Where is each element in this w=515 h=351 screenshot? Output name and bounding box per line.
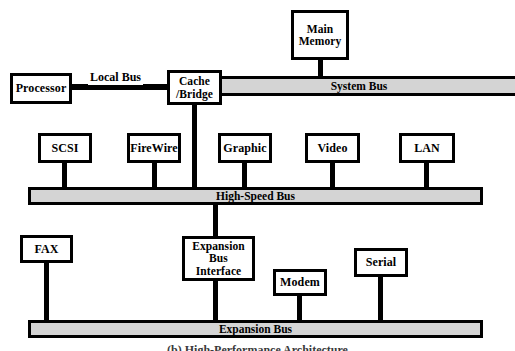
cache-bridge-to-high-speed-bus-connector bbox=[192, 103, 197, 189]
node-main-memory-label-line1: Main bbox=[307, 23, 334, 35]
expansion-interface-to-expansion-bus-connector bbox=[213, 280, 218, 322]
graphic-to-high-speed-bus-connector bbox=[242, 161, 247, 189]
lan-to-high-speed-bus-connector bbox=[424, 161, 429, 189]
node-cache-bridge: Cache /Bridge bbox=[167, 70, 222, 105]
node-expansion-bus-interface: Expansion Bus Interface bbox=[182, 236, 255, 281]
bus-high-speed-bus-label: High-Speed Bus bbox=[216, 190, 295, 202]
node-fax-label: FAX bbox=[34, 243, 58, 256]
node-serial: Serial bbox=[354, 248, 408, 277]
node-scsi: SCSI bbox=[38, 133, 92, 163]
bus-high-speed-bus: High-Speed Bus bbox=[28, 187, 483, 205]
figure-caption: (b) High-Performance Architecture bbox=[0, 343, 515, 351]
node-processor-label: Processor bbox=[16, 82, 67, 95]
node-modem-label: Modem bbox=[280, 276, 320, 289]
node-lan-label: LAN bbox=[414, 142, 440, 155]
local-bus-label: Local Bus bbox=[88, 70, 143, 85]
high-speed-bus-to-expansion-interface-connector bbox=[213, 203, 218, 238]
video-to-high-speed-bus-connector bbox=[330, 161, 335, 189]
bus-system-bus: System Bus bbox=[200, 76, 515, 96]
node-fax: FAX bbox=[20, 235, 73, 263]
high-performance-architecture-diagram: Main Memory System Bus Local Bus Process… bbox=[0, 0, 515, 351]
node-video-label: Video bbox=[317, 142, 347, 155]
node-main-memory-label-line2: Memory bbox=[299, 35, 342, 47]
node-graphic-label: Graphic bbox=[223, 142, 266, 155]
firewire-to-high-speed-bus-connector bbox=[152, 161, 157, 189]
node-main-memory: Main Memory bbox=[291, 10, 349, 60]
node-scsi-label: SCSI bbox=[51, 142, 78, 155]
node-graphic: Graphic bbox=[218, 133, 272, 163]
scsi-to-high-speed-bus-connector bbox=[62, 161, 67, 189]
fax-to-expansion-bus-connector bbox=[44, 261, 49, 322]
node-expansion-bus-interface-label-line2: Bus Interface bbox=[185, 252, 252, 276]
node-processor: Processor bbox=[10, 73, 72, 104]
node-cache-bridge-label-line1: Cache bbox=[179, 75, 210, 87]
bus-expansion-bus: Expansion Bus bbox=[28, 320, 483, 338]
serial-to-expansion-bus-connector bbox=[378, 275, 383, 322]
node-cache-bridge-label-line2: /Bridge bbox=[176, 88, 213, 100]
node-modem: Modem bbox=[273, 269, 327, 296]
bus-expansion-bus-label: Expansion Bus bbox=[219, 323, 292, 335]
modem-to-expansion-bus-connector bbox=[297, 294, 302, 322]
bus-system-bus-label: System Bus bbox=[331, 80, 388, 92]
node-serial-label: Serial bbox=[366, 256, 397, 269]
node-expansion-bus-interface-label-line1: Expansion bbox=[192, 240, 245, 252]
node-lan: LAN bbox=[399, 133, 455, 163]
node-firewire: FireWire bbox=[127, 133, 181, 163]
node-video: Video bbox=[305, 133, 360, 163]
node-firewire-label: FireWire bbox=[130, 142, 177, 155]
